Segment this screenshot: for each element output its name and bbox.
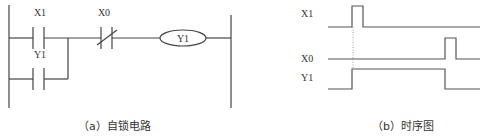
timing-label-y1: Y1 bbox=[301, 72, 313, 83]
label-coil-y1: Y1 bbox=[177, 33, 189, 44]
label-y1-contact: Y1 bbox=[34, 49, 46, 60]
waveform-y1 bbox=[328, 69, 480, 89]
label-x0: X0 bbox=[98, 7, 110, 18]
ladder-diagram: X1 Y1 X0 Y1 bbox=[9, 5, 231, 108]
contact-y1-normally-open bbox=[33, 68, 44, 90]
timing-label-x0: X0 bbox=[301, 53, 313, 64]
waveform-x1 bbox=[328, 6, 480, 27]
timing-label-x1: X1 bbox=[301, 8, 313, 19]
caption-timing-diagram: （b）时序图 bbox=[372, 117, 434, 133]
timing-diagram: X1 X0 Y1 bbox=[301, 6, 480, 89]
contact-x1-normally-open bbox=[33, 27, 44, 49]
waveform-x0 bbox=[328, 38, 480, 59]
label-x1: X1 bbox=[34, 7, 46, 18]
caption-self-lock-circuit: （a）自锁电路 bbox=[78, 117, 151, 133]
